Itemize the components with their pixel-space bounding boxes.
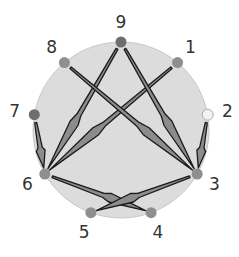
node-2: [202, 109, 213, 120]
node-1: [172, 57, 183, 68]
node-9: [116, 37, 127, 48]
node-label-4: 4: [152, 222, 163, 242]
node-5: [85, 207, 96, 218]
node-label-1: 1: [185, 37, 196, 57]
background-circle: [33, 42, 209, 218]
node-6: [39, 169, 50, 180]
node-label-9: 9: [116, 12, 127, 32]
node-3: [192, 169, 203, 180]
node-label-7: 7: [9, 101, 20, 121]
node-label-6: 6: [22, 174, 33, 194]
node-label-2: 2: [222, 101, 233, 121]
node-label-3: 3: [209, 174, 220, 194]
node-label-8: 8: [46, 37, 57, 57]
circular-graph-diagram: 123456789: [0, 0, 239, 257]
node-7: [29, 109, 40, 120]
node-4: [146, 207, 157, 218]
node-label-5: 5: [79, 222, 90, 242]
node-8: [59, 57, 70, 68]
